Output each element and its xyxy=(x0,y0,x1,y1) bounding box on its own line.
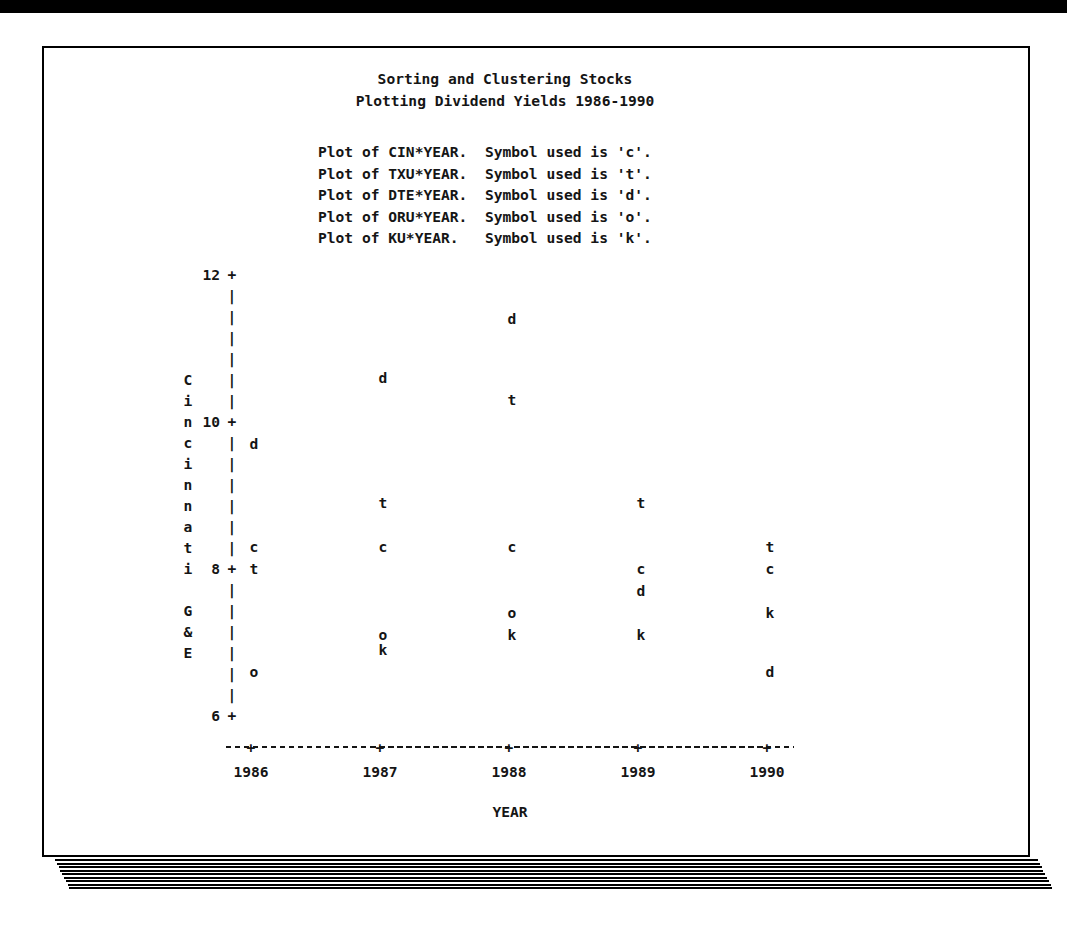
x-tick-label-1990: 1990 xyxy=(749,765,784,780)
data-point-t-1990: t xyxy=(766,540,775,555)
x-axis-tick-1989: + xyxy=(634,741,643,756)
x-axis-tick-1987: + xyxy=(376,741,385,756)
y-axis-segment: | xyxy=(228,436,237,451)
x-axis-tick-1988: + xyxy=(505,741,514,756)
y-axis-segment: | xyxy=(228,478,237,493)
x-axis-title: YEAR xyxy=(492,805,527,820)
y-axis-segment: | xyxy=(228,310,237,325)
y-axis-tick: + xyxy=(228,415,237,430)
data-point-o-1988: o xyxy=(508,606,517,621)
data-point-d-1987: d xyxy=(379,371,388,386)
y-axis-label-char: E xyxy=(184,646,193,661)
data-point-k-1989: k xyxy=(637,628,646,643)
data-point-o-1986: o xyxy=(250,665,259,680)
data-point-t-1989: t xyxy=(637,496,646,511)
y-axis-label-char: c xyxy=(184,436,193,451)
chart-title-line2: Plotting Dividend Yields 1986-1990 xyxy=(0,90,1010,112)
data-point-d-1988: d xyxy=(508,312,517,327)
y-axis-segment: | xyxy=(228,667,237,682)
data-point-c-1988: c xyxy=(508,540,517,555)
page-stack-line xyxy=(60,870,1043,872)
page-stack-line xyxy=(62,873,1045,875)
x-tick-label-1989: 1989 xyxy=(620,765,655,780)
y-axis-segment: | xyxy=(228,331,237,346)
page-stack-line xyxy=(57,863,1040,865)
page-stack-line xyxy=(59,866,1042,868)
data-point-d-1986: d xyxy=(250,437,259,452)
y-axis-label-char: i xyxy=(184,562,193,577)
legend-line-txu: Plot of TXU*YEAR. Symbol used is 't'. xyxy=(318,163,652,185)
y-axis-label-char: & xyxy=(184,625,193,640)
y-axis-tick: + xyxy=(228,268,237,283)
data-point-t-1987: t xyxy=(379,496,388,511)
data-point-k-1988: k xyxy=(508,628,517,643)
chart-title-line1: Sorting and Clustering Stocks xyxy=(0,68,1010,90)
y-axis-label-char: C xyxy=(184,373,193,388)
page-stack-line xyxy=(55,859,1038,861)
y-axis-label-char: i xyxy=(184,394,193,409)
x-axis-tick-1990: + xyxy=(763,741,772,756)
y-axis-label-char: G xyxy=(184,604,193,619)
y-axis-segment: | xyxy=(228,499,237,514)
y-tick-label-10: 10 xyxy=(202,415,220,430)
data-point-d-1989: d xyxy=(637,584,646,599)
y-axis-tick: + xyxy=(228,562,237,577)
data-point-c-1987: c xyxy=(379,540,388,555)
y-tick-label-8: 8 xyxy=(211,562,220,577)
y-tick-label-12: 12 xyxy=(202,268,220,283)
y-axis-segment: | xyxy=(228,625,237,640)
y-axis-segment: | xyxy=(228,541,237,556)
chart-title-block: Sorting and Clustering Stocks Plotting D… xyxy=(0,68,1010,112)
page-stack-line xyxy=(69,887,1052,889)
data-point-c-1986: c xyxy=(250,540,259,555)
x-tick-label-1987: 1987 xyxy=(362,765,397,780)
data-point-c-1990: c xyxy=(766,562,775,577)
data-point-c-1989: c xyxy=(637,562,646,577)
x-axis-tick-1986: + xyxy=(247,741,256,756)
data-point-d-1990: d xyxy=(766,665,775,680)
y-axis-segment: | xyxy=(228,394,237,409)
y-axis-label-char: n xyxy=(184,499,193,514)
y-axis-segment: | xyxy=(228,520,237,535)
y-tick-label-6: 6 xyxy=(211,709,220,724)
y-axis-segment: | xyxy=(228,604,237,619)
x-tick-label-1986: 1986 xyxy=(233,765,268,780)
data-point-t-1988: t xyxy=(508,393,517,408)
y-axis-label-char: t xyxy=(184,541,193,556)
plot-legend: Plot of CIN*YEAR. Symbol used is 'c'. Pl… xyxy=(318,141,652,249)
page-stack-line xyxy=(68,884,1051,886)
data-point-k-1990: k xyxy=(766,606,775,621)
legend-line-oru: Plot of ORU*YEAR. Symbol used is 'o'. xyxy=(318,206,652,228)
y-axis-label-char: i xyxy=(184,457,193,472)
y-axis-label-char: n xyxy=(184,478,193,493)
y-axis-segment: | xyxy=(228,352,237,367)
y-axis-segment: | xyxy=(228,373,237,388)
y-axis-segment: | xyxy=(228,289,237,304)
page-stack-line xyxy=(66,880,1049,882)
y-axis-segment: | xyxy=(228,688,237,703)
y-axis-label-char: n xyxy=(184,415,193,430)
x-tick-label-1988: 1988 xyxy=(491,765,526,780)
y-axis-tick: + xyxy=(228,709,237,724)
scan-top-edge xyxy=(0,0,1067,13)
legend-line-cin: Plot of CIN*YEAR. Symbol used is 'c'. xyxy=(318,141,652,163)
data-point-k-1987: k xyxy=(379,643,388,658)
scanned-page: Sorting and Clustering Stocks Plotting D… xyxy=(0,0,1067,925)
y-axis-segment: | xyxy=(228,583,237,598)
legend-line-ku: Plot of KU*YEAR. Symbol used is 'k'. xyxy=(318,227,652,249)
y-axis-label-char: a xyxy=(184,520,193,535)
y-axis-segment: | xyxy=(228,646,237,661)
y-axis-segment: | xyxy=(228,457,237,472)
legend-line-dte: Plot of DTE*YEAR. Symbol used is 'd'. xyxy=(318,184,652,206)
page-stack-line xyxy=(64,877,1047,879)
data-point-t-1986: t xyxy=(250,562,259,577)
